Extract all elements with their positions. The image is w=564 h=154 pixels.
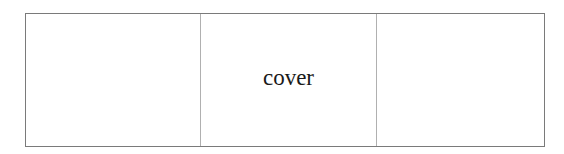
panel-middle: cover <box>201 14 377 146</box>
three-panel-frame: cover <box>25 13 545 147</box>
panel-right <box>377 14 544 146</box>
panel-left <box>26 14 201 146</box>
panel-middle-label: cover <box>263 65 314 91</box>
